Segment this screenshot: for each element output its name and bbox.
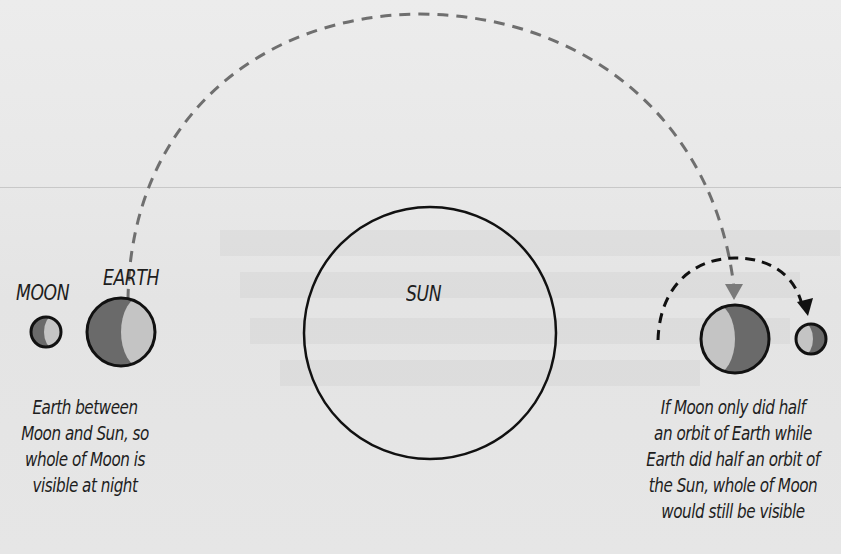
left-caption-line: visible at night [17, 472, 153, 498]
right-caption-line: If Moon only did half [643, 394, 824, 420]
left-caption-line: whole of Moon is [17, 446, 153, 472]
right-caption-line: the Sun, whole of Moon [643, 472, 824, 498]
right-caption: If Moon only did half an orbit of Earth … [620, 394, 841, 524]
sun-label: SUN [406, 282, 441, 306]
left-caption: Earth between Moon and Sun, so whole of … [0, 394, 170, 498]
left-caption-line: Moon and Sun, so [17, 420, 153, 446]
right-caption-line: Earth did half an orbit of [643, 446, 824, 472]
earth-label: EARTH [103, 266, 159, 290]
moon-label: MOON [16, 281, 69, 305]
earth-orbit-path [128, 14, 734, 300]
right-caption-line: an orbit of Earth while [643, 420, 824, 446]
left-caption-line: Earth between [17, 394, 153, 420]
diagram-page: MOON EARTH SUN Earth between Moon and Su… [0, 0, 841, 554]
earth-orbit-arrowhead [725, 284, 743, 300]
sun-circle [304, 207, 556, 459]
right-caption-line: would still be visible [643, 498, 824, 524]
